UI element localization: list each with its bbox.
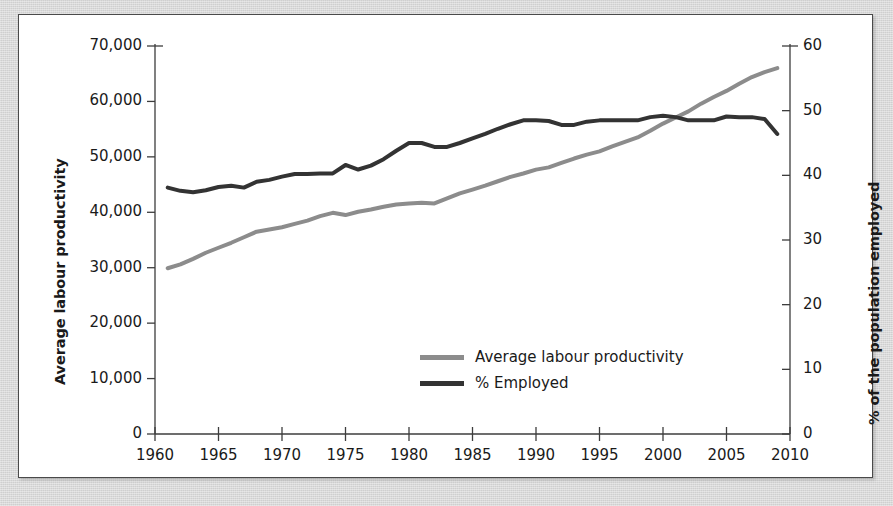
y-tick-label-right: 10 (803, 359, 822, 377)
y-axis-title-left: Average labour productivity (52, 158, 68, 385)
legend-item-productivity: Average labour productivity (420, 344, 684, 370)
chart-legend: Average labour productivity % Employed (420, 344, 684, 396)
x-tick-label: 1990 (506, 446, 566, 464)
legend-label-productivity: Average labour productivity (475, 348, 684, 366)
y-tick-label-left: 50,000 (90, 147, 143, 165)
y-tick-label-left: 70,000 (90, 36, 143, 54)
y-tick-label-right: 50 (803, 101, 822, 119)
x-tick-label: 1980 (379, 446, 439, 464)
y-tick-label-right: 20 (803, 295, 822, 313)
y-tick-label-left: 40,000 (90, 202, 143, 220)
x-tick-label: 1985 (443, 446, 503, 464)
y-tick-label-right: 60 (803, 36, 822, 54)
legend-swatch-employed (420, 381, 464, 386)
x-tick-label: 2000 (633, 446, 693, 464)
series-layer (168, 68, 778, 268)
y-tick-label-left: 30,000 (90, 258, 143, 276)
y-tick-label-left: 20,000 (90, 313, 143, 331)
series-line-productivity (168, 68, 778, 268)
y-tick-label-left: 0 (132, 424, 142, 442)
x-tick-label: 2005 (697, 446, 757, 464)
legend-swatch-productivity (420, 355, 464, 360)
y-tick-label-left: 60,000 (90, 91, 143, 109)
x-tick-label: 2010 (760, 446, 820, 464)
x-tick-label: 1975 (316, 446, 376, 464)
y-tick-label-right: 0 (803, 424, 813, 442)
y-tick-label-right: 40 (803, 165, 822, 183)
legend-label-employed: % Employed (475, 374, 569, 392)
x-tick-label: 1995 (570, 446, 630, 464)
x-tick-label: 1965 (189, 446, 249, 464)
y-tick-label-right: 30 (803, 230, 822, 248)
y-tick-label-left: 10,000 (90, 369, 143, 387)
x-tick-label: 1960 (125, 446, 185, 464)
x-tick-label: 1970 (252, 446, 312, 464)
y-axis-title-right: % of the population employed (866, 182, 882, 425)
series-line-employed (168, 116, 778, 192)
figure-container: Average labour productivity % of the pop… (0, 0, 893, 506)
legend-item-employed: % Employed (420, 370, 684, 396)
